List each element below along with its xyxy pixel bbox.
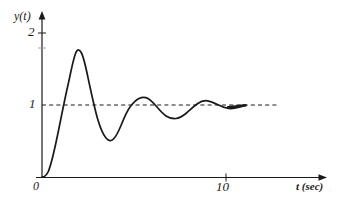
y-axis — [39, 11, 46, 178]
x-axis-title: t (sec) — [296, 181, 323, 192]
x-tick-label-10: 10 — [216, 180, 229, 193]
y-tick-label-1: 1 — [29, 97, 36, 110]
plot-canvas — [0, 0, 350, 203]
y-tick-label-2: 2 — [28, 25, 35, 38]
response-curve — [42, 50, 246, 177]
origin-label-0: 0 — [33, 180, 39, 192]
response-curve-tail — [228, 105, 246, 107]
x-axis — [36, 174, 327, 181]
y-axis-title: y(t) — [14, 10, 31, 22]
step-response-figure: y(t) t (sec) 2 1 0 10 — [0, 0, 350, 203]
